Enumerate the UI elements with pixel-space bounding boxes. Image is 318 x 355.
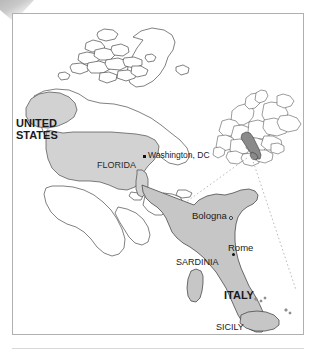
rome-marker (232, 253, 235, 256)
map-canvas (0, 0, 318, 355)
label-sicily: SICILY (216, 323, 244, 332)
label-united-states-line1: UNITED (16, 118, 58, 130)
label-sardinia: SARDINIA (176, 258, 219, 267)
label-rome: Rome (228, 243, 253, 253)
sardinia-island (187, 269, 203, 302)
label-florida: FLORIDA (97, 161, 136, 170)
bologna-marker (229, 216, 233, 220)
bottom-rule (12, 348, 304, 349)
label-united-states: UNITED STATES (16, 118, 58, 141)
label-washington-dc: Washington, DC (148, 151, 210, 160)
map-figure: UNITED STATES FLORIDA Washington, DC Bol… (0, 0, 318, 355)
washington-dc-marker (143, 155, 146, 158)
callout-line-lower (252, 158, 296, 290)
label-italy: ITALY (224, 290, 254, 302)
label-bologna: Bologna (192, 211, 227, 221)
label-united-states-line2: STATES (16, 130, 58, 142)
sicily-island (240, 311, 279, 331)
